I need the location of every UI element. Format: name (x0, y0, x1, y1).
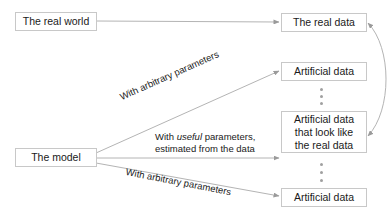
node-artificial-middle-line2: that look like (295, 126, 353, 139)
ellipsis-dot (320, 179, 323, 182)
edge-label-middle-line2: estimated from the data (155, 143, 255, 154)
edge-label-middle: With useful parameters, (155, 131, 255, 142)
node-model: The model (15, 148, 97, 167)
edge-compare-curve (368, 23, 386, 136)
ellipsis-dot (320, 163, 323, 166)
edge-label-middle-emph: useful (177, 131, 202, 142)
ellipsis-dot (320, 171, 323, 174)
node-artificial-middle-line3: the real data (295, 139, 353, 152)
node-real-world-label: The real world (23, 15, 90, 28)
edge-label-middle-prefix: With (155, 131, 177, 142)
ellipsis-dot (320, 95, 323, 98)
node-artificial-bottom-label: Artificial data (294, 191, 354, 204)
ellipsis-dot (320, 88, 323, 91)
node-model-label: The model (31, 151, 81, 164)
node-artificial-middle-line1: Artificial data (294, 113, 354, 126)
edge-world-to-data (96, 21, 279, 22)
node-artificial-middle: Artificial data that look like the real … (281, 111, 367, 153)
node-artificial-bottom: Artificial data (281, 188, 367, 207)
node-artificial-top: Artificial data (281, 62, 367, 81)
edge-label-middle-suffix: parameters, (202, 131, 255, 142)
ellipsis-dot (320, 102, 323, 105)
node-real-data: The real data (281, 13, 367, 32)
node-real-data-label: The real data (293, 16, 355, 29)
node-artificial-top-label: Artificial data (294, 65, 354, 78)
node-real-world: The real world (15, 12, 97, 31)
